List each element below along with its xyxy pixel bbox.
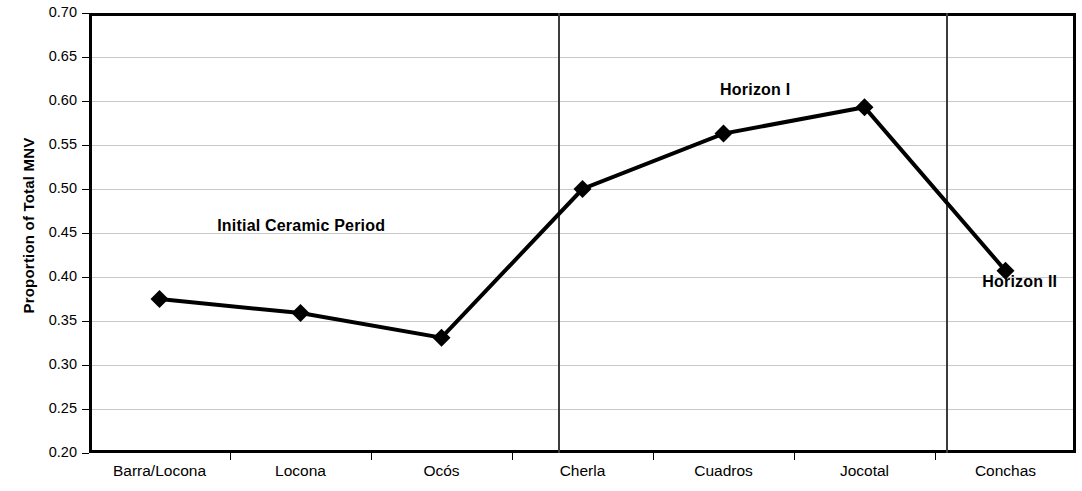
line-chart: Proportion of Total MNV 0.700.650.600.55… bbox=[0, 0, 1082, 491]
x-axis-tick-mark bbox=[653, 453, 654, 460]
y-axis-tick-mark bbox=[82, 13, 89, 14]
y-axis-tick-label: 0.30 bbox=[19, 357, 77, 371]
gridline bbox=[92, 409, 1073, 410]
y-axis-tick-mark bbox=[82, 365, 89, 366]
y-axis-tick-label: 0.70 bbox=[19, 5, 77, 19]
x-axis-tick-mark bbox=[230, 453, 231, 460]
y-axis-tick-mark bbox=[82, 277, 89, 278]
gridline bbox=[92, 189, 1073, 190]
gridline bbox=[92, 321, 1073, 322]
y-axis-tick-label: 0.60 bbox=[19, 93, 77, 107]
divider-after-ocos bbox=[558, 13, 560, 453]
gridline bbox=[92, 145, 1073, 146]
x-axis-tick-mark bbox=[512, 453, 513, 460]
y-axis-tick-label: 0.45 bbox=[19, 225, 77, 239]
y-axis-tick-mark bbox=[82, 145, 89, 146]
gridline bbox=[92, 57, 1073, 58]
y-axis-tick-label: 0.25 bbox=[19, 401, 77, 415]
x-axis-tick-mark bbox=[794, 453, 795, 460]
y-axis-tick-label: 0.40 bbox=[19, 269, 77, 283]
y-axis-tick-mark bbox=[82, 321, 89, 322]
y-axis-tick-label: 0.35 bbox=[19, 313, 77, 327]
x-axis-tick-mark bbox=[371, 453, 372, 460]
gridline bbox=[92, 277, 1073, 278]
y-axis-tick-mark bbox=[82, 101, 89, 102]
x-axis-tick-label: Conchas bbox=[916, 462, 1082, 480]
y-axis-tick-mark bbox=[82, 57, 89, 58]
gridline bbox=[92, 365, 1073, 366]
y-axis-tick-label: 0.50 bbox=[19, 181, 77, 195]
y-axis-tick-label: 0.55 bbox=[19, 137, 77, 151]
y-axis-tick-mark bbox=[82, 189, 89, 190]
chart-annotation: Initial Ceramic Period bbox=[217, 217, 385, 235]
x-axis-tick-mark bbox=[935, 453, 936, 460]
divider-after-jocotal bbox=[946, 13, 948, 453]
gridline bbox=[92, 101, 1073, 102]
y-axis-tick-label: 0.65 bbox=[19, 49, 77, 63]
y-axis-tick-mark bbox=[82, 453, 89, 454]
y-axis-tick-label: 0.20 bbox=[19, 445, 77, 459]
y-axis-tick-mark bbox=[82, 233, 89, 234]
y-axis-tick-mark bbox=[82, 409, 89, 410]
chart-annotation: Horizon II bbox=[982, 273, 1057, 291]
chart-annotation: Horizon I bbox=[720, 81, 790, 99]
